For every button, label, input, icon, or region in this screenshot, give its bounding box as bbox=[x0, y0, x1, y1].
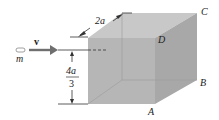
mass-label: m bbox=[16, 54, 23, 64]
arrowhead-icon bbox=[70, 99, 74, 104]
cube-diagram bbox=[0, 0, 219, 120]
edge-length-label: 2a bbox=[95, 16, 105, 26]
projectile-icon bbox=[16, 48, 25, 52]
vertex-label-c: C bbox=[201, 7, 208, 17]
cube-front-face bbox=[88, 38, 155, 104]
height-denominator-label: 3 bbox=[69, 79, 74, 89]
arrowhead-icon bbox=[50, 45, 58, 55]
vertex-label-a: A bbox=[148, 107, 154, 117]
velocity-label: v⃗ bbox=[34, 37, 47, 47]
height-numerator-label: 4a bbox=[66, 66, 76, 76]
vertex-label-d: D bbox=[158, 35, 165, 45]
arrowhead-icon bbox=[70, 51, 74, 56]
vertex-label-b: B bbox=[200, 78, 206, 88]
